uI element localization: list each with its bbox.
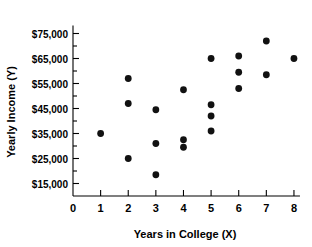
data-point <box>235 69 242 76</box>
data-point <box>208 101 215 108</box>
data-point <box>263 71 270 78</box>
data-point <box>208 113 215 120</box>
y-tick-label: $45,000 <box>32 104 69 115</box>
data-points-layer <box>97 38 297 179</box>
y-tick-label: $25,000 <box>32 154 69 165</box>
data-point <box>235 53 242 60</box>
x-tick-label: 3 <box>153 202 159 214</box>
y-tick-label: $65,000 <box>32 54 69 65</box>
y-tick-label: $15,000 <box>32 179 69 190</box>
data-point <box>208 55 215 62</box>
x-tick-label: 4 <box>180 202 187 214</box>
x-tick-label: 1 <box>98 202 104 214</box>
x-axis <box>73 190 300 196</box>
x-tick-label: 6 <box>236 202 242 214</box>
data-point <box>291 55 298 62</box>
y-tick-label: $75,000 <box>32 29 69 40</box>
data-point <box>152 106 159 113</box>
y-axis-tick-labels: $15,000$25,000$35,000$45,000$55,000$65,0… <box>32 29 69 190</box>
scatter-plot-figure: $15,000$25,000$35,000$45,000$55,000$65,0… <box>0 0 312 247</box>
y-axis-title: Yearly Income (Y) <box>5 66 17 158</box>
data-point <box>152 171 159 178</box>
data-point <box>125 155 132 162</box>
y-tick-label: $55,000 <box>32 79 69 90</box>
x-tick-label: 2 <box>125 202 131 214</box>
plot-canvas: $15,000$25,000$35,000$45,000$55,000$65,0… <box>0 0 312 247</box>
data-point <box>180 86 187 93</box>
x-axis-title: Years in College (X) <box>134 228 237 240</box>
y-axis <box>73 26 79 197</box>
x-axis-tick-labels: 012345678 <box>70 202 297 214</box>
data-point <box>208 128 215 135</box>
y-tick-label: $35,000 <box>32 129 69 140</box>
data-point <box>125 100 132 107</box>
x-tick-label: 5 <box>208 202 214 214</box>
data-point <box>263 38 270 45</box>
data-point <box>180 144 187 151</box>
data-point <box>125 75 132 82</box>
data-point <box>97 130 104 137</box>
x-tick-label: 7 <box>263 202 269 214</box>
x-tick-label: 0 <box>70 202 76 214</box>
data-point <box>180 136 187 143</box>
data-point <box>152 140 159 147</box>
x-tick-label: 8 <box>291 202 297 214</box>
data-point <box>235 85 242 92</box>
